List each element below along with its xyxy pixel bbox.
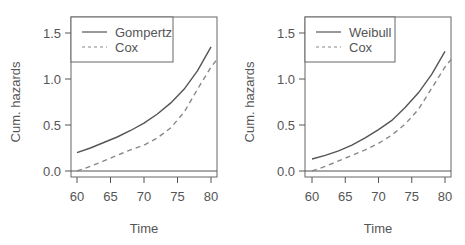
x-tick-label: 65: [103, 189, 117, 204]
chart-canvas: 6065707580Time0.00.51.01.5Cum. hazardsGo…: [0, 0, 465, 245]
x-axis-title: Time: [364, 221, 392, 236]
x-tick-label: 65: [338, 189, 352, 204]
x-tick-label: 80: [438, 189, 452, 204]
y-tick-label: 1.0: [277, 72, 295, 87]
chart-panel-2: 6065707580Time0.00.51.01.5Cum. hazardsWe…: [242, 17, 452, 236]
x-axis-title: Time: [130, 221, 158, 236]
x-tick-label: 80: [204, 189, 218, 204]
y-axis: 0.00.51.01.5: [43, 26, 71, 179]
series-cox-line: [77, 59, 218, 171]
y-tick-label: 1.5: [43, 26, 61, 41]
x-axis: 6065707580: [305, 177, 452, 204]
legend: WeibullCox: [305, 17, 395, 62]
x-tick-label: 60: [305, 189, 319, 204]
y-tick-label: 0.5: [43, 118, 61, 133]
x-tick-label: 75: [405, 189, 419, 204]
y-tick-label: 0.0: [277, 164, 295, 179]
x-tick-label: 60: [70, 189, 84, 204]
legend-label-weibull: Weibull: [349, 25, 392, 40]
legend-label-cox: Cox: [115, 40, 139, 55]
legend-label-cox: Cox: [349, 40, 373, 55]
legend: GompertzCox: [71, 17, 173, 62]
legend-label-gompertz: Gompertz: [115, 25, 172, 40]
x-axis: 6065707580: [70, 177, 218, 204]
x-tick-label: 70: [371, 189, 385, 204]
chart-panel-1: 6065707580Time0.00.51.01.5Cum. hazardsGo…: [8, 17, 218, 236]
x-tick-label: 70: [137, 189, 151, 204]
y-axis: 0.00.51.01.5: [277, 26, 305, 179]
y-tick-label: 1.5: [277, 26, 295, 41]
y-tick-label: 0.0: [43, 164, 61, 179]
y-tick-label: 0.5: [277, 118, 295, 133]
y-axis-title: Cum. hazards: [242, 61, 257, 142]
x-tick-label: 75: [170, 189, 184, 204]
y-tick-label: 1.0: [43, 72, 61, 87]
y-axis-title: Cum. hazards: [8, 61, 23, 142]
